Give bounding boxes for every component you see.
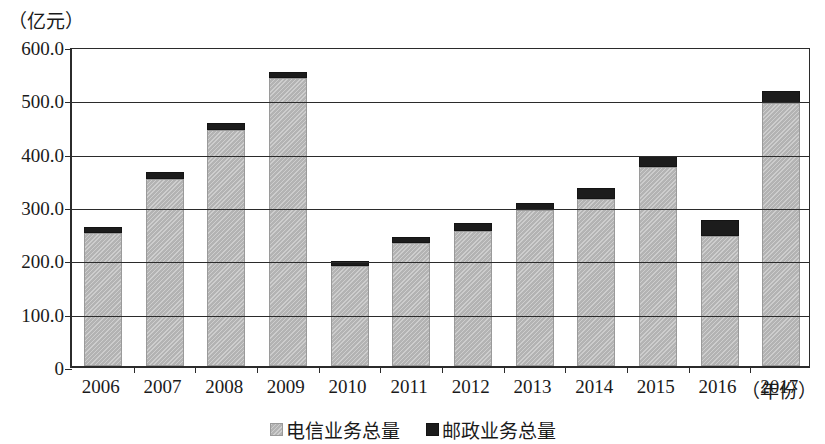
x-tick-label-2014: 2014 [575, 376, 613, 398]
bar-segment-telecom [207, 130, 245, 366]
legend-label-telecom: 电信业务总量 [286, 416, 400, 443]
bar-segment-telecom [269, 78, 307, 366]
y-tick-label: 200.0 [2, 252, 64, 271]
bar-2017 [762, 46, 800, 366]
gridline [72, 156, 809, 157]
y-tick-mark [65, 262, 72, 263]
x-tick-label-2011: 2011 [391, 376, 428, 398]
bar-segment-telecom [454, 231, 492, 366]
y-axis-tick-labels: 0100.0200.0300.0400.0500.0600.0 [0, 0, 64, 444]
bar-segment-telecom [84, 233, 122, 366]
x-tick-mark [627, 366, 628, 373]
bars-layer [72, 49, 809, 366]
bar-segment-telecom [516, 210, 554, 366]
x-tick-mark [319, 366, 320, 373]
x-tick-mark [134, 366, 135, 373]
x-axis-name: （年份） [741, 376, 817, 403]
bar-2009 [269, 46, 307, 366]
y-tick-mark [65, 369, 72, 370]
y-tick-label: 0 [2, 359, 64, 378]
x-tick-label-2015: 2015 [637, 376, 675, 398]
x-axis-tick-labels: 2006200720082009201020112012201320142015… [70, 376, 810, 402]
bar-2013 [516, 46, 554, 366]
x-tick-label-2007: 2007 [144, 376, 182, 398]
bar-2007 [146, 46, 184, 366]
bar-segment-postal [454, 223, 492, 231]
x-tick-mark [504, 366, 505, 373]
x-tick-label-2006: 2006 [82, 376, 120, 398]
plot-area [70, 48, 810, 368]
x-tick-label-2010: 2010 [329, 376, 367, 398]
stacked-bar-chart: （亿元） 0100.0200.0300.0400.0500.0600.0 200… [0, 0, 825, 444]
gridline [72, 102, 809, 103]
y-tick-mark [65, 49, 72, 50]
y-tick-mark [65, 156, 72, 157]
gridline [72, 316, 809, 317]
x-tick-mark [565, 366, 566, 373]
y-tick-label: 500.0 [2, 92, 64, 111]
y-tick-label: 300.0 [2, 199, 64, 218]
y-tick-label: 100.0 [2, 305, 64, 324]
bar-segment-postal [207, 123, 245, 130]
y-tick-mark [65, 209, 72, 210]
bar-segment-telecom [762, 103, 800, 366]
bar-segment-postal [577, 188, 615, 199]
bar-2010 [331, 46, 369, 366]
bar-segment-telecom [701, 236, 739, 366]
x-tick-mark [442, 366, 443, 373]
x-tick-mark [380, 366, 381, 373]
gridline [72, 262, 809, 263]
x-tick-label-2008: 2008 [205, 376, 243, 398]
bar-2015 [639, 46, 677, 366]
bar-segment-telecom [639, 167, 677, 366]
bar-2011 [392, 46, 430, 366]
gray-swatch-icon [270, 423, 283, 436]
bar-2016 [701, 46, 739, 366]
bar-2014 [577, 46, 615, 366]
x-tick-mark [195, 366, 196, 373]
bar-2006 [84, 46, 122, 366]
y-tick-mark [65, 102, 72, 103]
legend-item-telecom: 电信业务总量 [270, 416, 400, 443]
x-tick-label-2016: 2016 [699, 376, 737, 398]
y-tick-label: 600.0 [2, 39, 64, 58]
bar-2012 [454, 46, 492, 366]
bar-segment-telecom [392, 243, 430, 366]
legend-item-postal: 邮政业务总量 [426, 416, 556, 443]
bar-segment-postal [639, 156, 677, 167]
gridline [72, 209, 809, 210]
bar-segment-postal [701, 220, 739, 236]
y-tick-label: 400.0 [2, 145, 64, 164]
x-tick-mark [750, 366, 751, 373]
bar-segment-postal [146, 172, 184, 179]
bar-segment-telecom [577, 199, 615, 366]
bar-2008 [207, 46, 245, 366]
bar-segment-telecom [146, 179, 184, 366]
x-tick-label-2009: 2009 [267, 376, 305, 398]
x-tick-label-2013: 2013 [514, 376, 552, 398]
bar-segment-postal [762, 91, 800, 103]
chart-legend: 电信业务总量 邮政业务总量 [0, 416, 825, 443]
legend-label-postal: 邮政业务总量 [442, 416, 556, 443]
y-tick-mark [65, 316, 72, 317]
x-tick-mark [689, 366, 690, 373]
black-swatch-icon [426, 423, 439, 436]
x-tick-label-2012: 2012 [452, 376, 490, 398]
x-tick-mark [257, 366, 258, 373]
